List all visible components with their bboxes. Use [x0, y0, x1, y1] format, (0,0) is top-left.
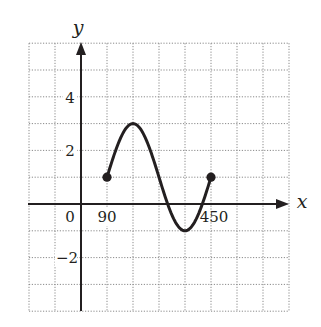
- y-axis: [76, 42, 86, 311]
- endpoint-dot-end: [206, 173, 215, 182]
- origin-label: 0: [65, 208, 75, 226]
- x-tick-label-450: 450: [200, 208, 229, 226]
- x-axis-label: x: [297, 190, 308, 212]
- y-tick-label-2: 2: [65, 142, 75, 160]
- x-axis-arrow-icon: [276, 199, 289, 209]
- x-tick-label-90: 90: [97, 208, 116, 226]
- y-axis-arrow-icon: [76, 42, 86, 55]
- y-tick-label-neg2: −2: [56, 249, 78, 267]
- y-tick-label-4: 4: [65, 89, 75, 107]
- y-axis-label: y: [72, 16, 84, 38]
- graph-figure: y x 4 2 −2 0 90 450: [0, 0, 321, 327]
- endpoint-dot-start: [102, 173, 111, 182]
